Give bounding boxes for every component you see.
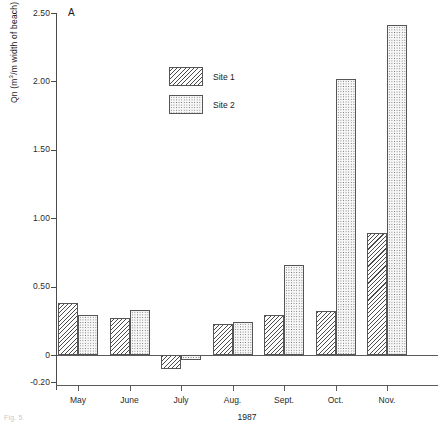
bar-aug-site2: [233, 322, 253, 355]
y-tick-label-text: 1.00: [33, 214, 50, 223]
y-tick-mark: [51, 81, 57, 82]
bar-june-site1: [110, 318, 130, 355]
x-axis-line: [56, 385, 438, 386]
legend-item-1: Site 1: [169, 67, 235, 86]
legend-item-2: Site 2: [169, 95, 235, 114]
bar-june-site2: [130, 310, 150, 355]
x-tick-mark: [387, 385, 388, 391]
bar-aug-site1: [213, 324, 233, 355]
y-tick-mark: [51, 150, 57, 151]
figure-caption-fragment: Fig. 5.: [4, 414, 25, 421]
y-tick-label-text: 2.50: [33, 9, 50, 18]
bar-oct-site2: [336, 79, 356, 355]
y-tick-label-text: -0.20: [30, 378, 50, 387]
y-tick-label-text: 0: [45, 351, 50, 360]
bar-nov-site1: [367, 233, 387, 355]
y-tick-label-text: 1.50: [33, 145, 50, 154]
y-axis-title: Qn (m3/m width of beach): [8, 0, 19, 103]
y-axis-title-suffix: /m width of beach): [9, 2, 19, 75]
figure-chart-a: A Qn (m3/m width of beach) 1987 -0.2000.…: [0, 0, 448, 426]
y-tick-mark: [51, 218, 57, 219]
x-tick-mark: [181, 385, 182, 391]
panel-label: A: [68, 7, 75, 18]
bar-sept-site2: [284, 265, 304, 355]
bar-july-site1: [161, 355, 181, 369]
bar-may-site1: [58, 303, 78, 355]
x-tick-label: Nov.: [357, 396, 417, 405]
bar-may-site2: [78, 315, 98, 355]
x-tick-mark: [78, 385, 79, 391]
legend-swatch-stipple-dots: [169, 95, 203, 114]
y-axis-title-exponent: 3: [8, 75, 14, 79]
y-axis-line: [56, 13, 57, 390]
legend-swatch-diagonal-hatch: [169, 67, 203, 86]
x-tick-mark: [336, 385, 337, 391]
legend-label: Site 2: [213, 100, 235, 110]
legend: Site 1Site 2: [169, 67, 235, 123]
zero-baseline: [56, 355, 438, 356]
y-tick-mark: [51, 287, 57, 288]
y-axis-title-prefix: Qn (m: [9, 78, 19, 103]
y-tick-label-text: 0.50: [33, 282, 50, 291]
bar-nov-site2: [387, 25, 407, 355]
bar-july-site2: [181, 355, 201, 360]
x-tick-mark: [233, 385, 234, 391]
bar-oct-site1: [316, 311, 336, 355]
y-tick-mark: [51, 13, 57, 14]
x-tick-mark: [130, 385, 131, 391]
y-tick-label-text: 2.00: [33, 77, 50, 86]
y-tick-mark: [51, 382, 57, 383]
y-tick-mark: [51, 355, 57, 356]
x-tick-mark: [284, 385, 285, 391]
x-axis-title: 1987: [56, 412, 438, 422]
legend-label: Site 1: [213, 72, 235, 82]
bar-sept-site1: [264, 315, 284, 355]
plot-area: A Qn (m3/m width of beach) 1987 -0.2000.…: [56, 8, 438, 388]
